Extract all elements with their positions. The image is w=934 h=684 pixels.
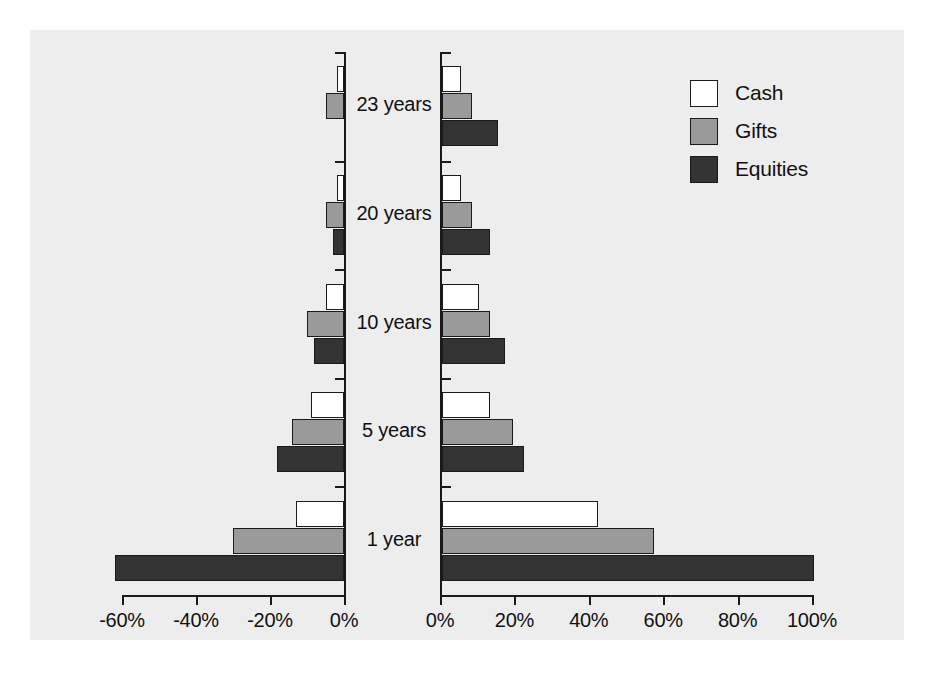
legend-label-cash: Cash xyxy=(735,81,783,105)
left-x-tick xyxy=(196,597,198,605)
chart-figure: -60%-40%-20%0%0%20%40%60%80%100%23 years… xyxy=(30,30,904,640)
left-x-tick xyxy=(270,597,272,605)
bar-right-gifts xyxy=(442,311,490,337)
bar-right-gifts xyxy=(442,202,472,228)
bar-left-cash xyxy=(311,392,344,418)
legend-item-cash: Cash xyxy=(690,74,890,112)
bar-left-cash xyxy=(337,66,344,92)
bar-left-cash xyxy=(296,501,344,527)
right-x-tick xyxy=(663,597,665,605)
right-axis-tick xyxy=(442,269,451,271)
left-x-tick xyxy=(122,597,124,605)
category-label: 1 year xyxy=(346,528,442,551)
right-x-tick-label: 100% xyxy=(767,609,857,632)
legend-item-gifts: Gifts xyxy=(690,112,890,150)
right-panel-x-axis xyxy=(440,595,814,597)
bar-right-cash xyxy=(442,66,461,92)
bar-right-gifts xyxy=(442,419,513,445)
bar-right-cash xyxy=(442,392,490,418)
left-axis-tick xyxy=(335,595,344,597)
chart-legend: Cash Gifts Equities xyxy=(690,74,890,188)
bar-left-gifts xyxy=(307,311,344,337)
right-x-tick xyxy=(514,597,516,605)
bar-left-gifts xyxy=(326,93,345,119)
right-x-tick xyxy=(812,597,814,605)
right-axis-tick xyxy=(442,378,451,380)
bar-right-gifts xyxy=(442,528,654,554)
bar-left-equities xyxy=(115,555,344,581)
bar-left-gifts xyxy=(326,202,345,228)
left-x-tick xyxy=(344,597,346,605)
right-x-tick xyxy=(589,597,591,605)
right-axis-tick xyxy=(442,161,451,163)
left-axis-tick xyxy=(335,378,344,380)
bar-left-gifts xyxy=(233,528,344,554)
left-x-tick-label: 0% xyxy=(299,609,389,632)
bar-right-gifts xyxy=(442,93,472,119)
bar-right-cash xyxy=(442,501,598,527)
right-x-tick xyxy=(738,597,740,605)
bar-left-gifts xyxy=(292,419,344,445)
bar-left-equities xyxy=(277,446,344,472)
category-label: 23 years xyxy=(346,93,442,116)
right-x-tick xyxy=(440,597,442,605)
legend-label-gifts: Gifts xyxy=(735,119,777,143)
legend-label-equities: Equities xyxy=(735,157,808,181)
bar-left-cash xyxy=(326,284,345,310)
left-axis-tick xyxy=(335,52,344,54)
plot-area: -60%-40%-20%0%0%20%40%60%80%100%23 years… xyxy=(30,30,904,640)
bar-right-equities xyxy=(442,555,814,581)
left-panel-x-axis xyxy=(122,595,346,597)
category-label: 10 years xyxy=(346,311,442,334)
legend-swatch-gifts-icon xyxy=(690,118,718,145)
left-axis-tick xyxy=(335,486,344,488)
bar-left-cash xyxy=(337,175,344,201)
right-axis-tick xyxy=(442,595,451,597)
bar-right-equities xyxy=(442,229,490,255)
figure-caption xyxy=(30,656,630,672)
bar-right-cash xyxy=(442,284,479,310)
bar-left-equities xyxy=(314,338,344,364)
left-axis-tick xyxy=(335,161,344,163)
category-label: 5 years xyxy=(346,419,442,442)
legend-swatch-cash-icon xyxy=(690,80,718,107)
bar-right-equities xyxy=(442,120,498,146)
legend-item-equities: Equities xyxy=(690,150,890,188)
bar-right-equities xyxy=(442,446,524,472)
legend-swatch-equities-icon xyxy=(690,156,718,183)
left-axis-tick xyxy=(335,269,344,271)
bar-right-cash xyxy=(442,175,461,201)
category-label: 20 years xyxy=(346,202,442,225)
bar-left-equities xyxy=(333,229,344,255)
right-axis-tick xyxy=(442,52,451,54)
bar-right-equities xyxy=(442,338,505,364)
right-axis-tick xyxy=(442,486,451,488)
